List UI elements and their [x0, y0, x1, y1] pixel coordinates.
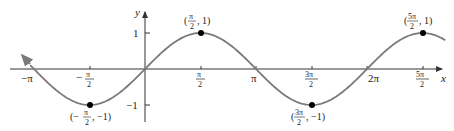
- y-axis-label: y: [134, 6, 140, 18]
- svg-text:, −1): , −1): [92, 111, 111, 123]
- svg-text:(: (: [184, 15, 188, 27]
- svg-text:(−: (−: [70, 111, 79, 123]
- svg-text:5π: 5π: [416, 70, 424, 79]
- svg-text:2: 2: [420, 80, 424, 89]
- svg-text:π: π: [84, 108, 88, 117]
- x-tick-neg-half-pi: − π 2: [76, 70, 94, 89]
- svg-text:−: −: [76, 71, 82, 83]
- svg-text:2: 2: [190, 22, 194, 31]
- x-tick-neg-pi: −π: [21, 72, 33, 84]
- svg-text:, −1): , −1): [306, 111, 325, 123]
- svg-text:2: 2: [410, 22, 414, 31]
- svg-text:2: 2: [198, 80, 202, 89]
- x-axis-label: x: [440, 72, 446, 84]
- svg-text:3π: 3π: [295, 108, 303, 117]
- x-tick-five-half-pi: 5π 2: [416, 70, 429, 89]
- label-half-pi: ( π 2 , 1): [184, 12, 210, 31]
- curve-arrow-left: [22, 55, 30, 64]
- y-tick-1: 1: [133, 27, 139, 39]
- label-five-half-pi: ( 5π 2 , 1): [404, 12, 432, 31]
- x-tick-three-half-pi: 3π 2: [305, 70, 318, 89]
- label-three-half-pi: ( 3π 2 , −1): [291, 108, 325, 127]
- svg-text:, 1): , 1): [419, 15, 432, 27]
- point-five-half-pi: [420, 30, 426, 36]
- svg-text:π: π: [197, 70, 201, 79]
- svg-text:3π: 3π: [305, 70, 313, 79]
- svg-text:5π: 5π: [408, 12, 416, 21]
- svg-text:2: 2: [309, 80, 313, 89]
- svg-text:, 1): , 1): [197, 15, 210, 27]
- x-tick-two-pi: 2π: [368, 72, 380, 84]
- x-tick-pi: π: [251, 72, 257, 84]
- svg-text:2: 2: [87, 80, 91, 89]
- point-half-pi: [198, 30, 204, 36]
- point-three-half-pi: [309, 102, 315, 108]
- svg-text:π: π: [86, 70, 90, 79]
- label-neg-half-pi: (− π 2 , −1): [70, 108, 111, 127]
- svg-text:2: 2: [297, 118, 301, 127]
- sine-graph: x y 1 −1 −π − π 2 π 2 π 3π 2 2π: [0, 0, 454, 131]
- svg-text:π: π: [189, 12, 193, 21]
- y-tick-neg1: −1: [126, 99, 138, 111]
- svg-text:2: 2: [85, 118, 89, 127]
- x-tick-half-pi: π 2: [196, 70, 205, 89]
